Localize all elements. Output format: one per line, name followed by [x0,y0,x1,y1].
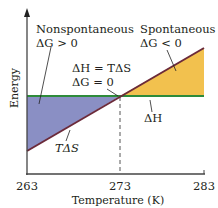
energy-temperature-chart: Nonspontaneous ΔG > 0 Spontaneous ΔG < 0… [0,0,218,208]
nonspont-cond-label: ΔG > 0 [36,36,78,50]
eq-leader [107,89,118,96]
nonspont-label: Nonspontaneous [36,22,134,36]
x-tick-label-263: 263 [16,179,38,193]
y-axis-title: Energy [8,67,21,108]
delta-g-zero-label: ΔG = 0 [72,75,114,89]
x-tick-label-273: 273 [109,179,131,193]
y-axis-arrow-icon [24,8,30,17]
delta-h-label: ΔH [144,111,162,125]
spont-cond-label: ΔG < 0 [140,36,182,50]
tds-leader [66,130,70,141]
x-tick-label-283: 283 [193,179,215,193]
equality-label: ΔH = TΔS [72,61,131,75]
t-delta-s-label: TΔS [55,141,79,155]
x-axis-title: Temperature (K) [72,194,164,207]
spont-label: Spontaneous [140,22,216,36]
